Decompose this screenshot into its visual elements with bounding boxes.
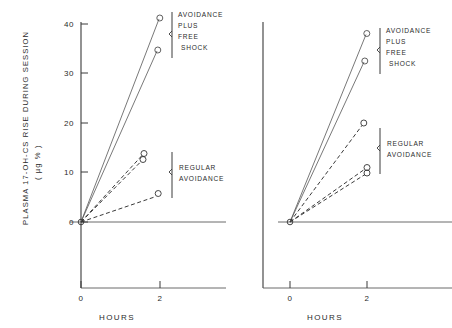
right-solid-line-1 bbox=[290, 35, 366, 223]
right-solid-line-2 bbox=[290, 62, 364, 222]
y-tick-label-10: 10 bbox=[64, 168, 74, 177]
left-legend-line-1: AVOIDANCE bbox=[178, 11, 223, 18]
right-solid-marker-1 bbox=[364, 31, 370, 37]
left-legend-reg-line-1: REGULAR bbox=[179, 164, 216, 171]
y-tick-label-20: 20 bbox=[64, 119, 74, 128]
right-dashed-line-2 bbox=[290, 169, 365, 222]
left-legend-regular-avoidance: REGULAR AVOIDANCE bbox=[169, 152, 224, 198]
left-dashed-marker-3 bbox=[155, 191, 161, 197]
right-legend-reg-line-2: AVOIDANCE bbox=[387, 151, 432, 158]
y-axis-units: ( µg % ) bbox=[33, 144, 42, 180]
right-legend-regular-avoidance: REGULAR AVOIDANCE bbox=[377, 128, 432, 174]
chart-svg: 40 30 20 10 0 0 2 HOURS bbox=[0, 0, 452, 328]
right-legend-avoidance-plus-free-shock: AVOIDANCE PLUS FREE SHOCK bbox=[377, 27, 431, 74]
figure-container: 40 30 20 10 0 0 2 HOURS bbox=[0, 0, 452, 328]
left-dashed-marker-2 bbox=[140, 157, 146, 163]
left-x-tick-label-2: 2 bbox=[158, 294, 163, 303]
left-solid-line-2 bbox=[81, 51, 157, 222]
left-solid-marker-2 bbox=[155, 47, 161, 53]
right-legend-line-4: SHOCK bbox=[389, 60, 416, 67]
left-x-tick-label-0: 0 bbox=[79, 294, 84, 303]
left-x-axis-title: HOURS bbox=[99, 313, 135, 322]
right-legend-line-2: PLUS bbox=[386, 38, 406, 45]
right-dashed-line-1 bbox=[290, 126, 362, 223]
left-dashed-line-2 bbox=[81, 162, 141, 223]
left-legend-line-2: PLUS bbox=[178, 22, 198, 29]
right-dashed-marker-1 bbox=[361, 120, 367, 126]
y-axis-title: PLASMA 17-OH-CS RISE DURING SESSION bbox=[21, 31, 30, 225]
left-legend-line-4: SHOCK bbox=[181, 44, 208, 51]
right-x-axis-title: HOURS bbox=[307, 313, 343, 322]
right-solid-marker-2 bbox=[362, 58, 368, 64]
right-series-regular-avoidance bbox=[287, 120, 370, 225]
left-dashed-marker-1 bbox=[141, 151, 147, 157]
left-solid-line-1 bbox=[81, 19, 159, 222]
right-x-tick-label-0: 0 bbox=[288, 294, 293, 303]
left-legend-avoidance-plus-free-shock: AVOIDANCE PLUS FREE SHOCK bbox=[169, 11, 223, 58]
y-tick-label-30: 30 bbox=[64, 69, 74, 78]
left-solid-marker-1 bbox=[157, 15, 163, 21]
right-legend-line-1: AVOIDANCE bbox=[386, 27, 431, 34]
right-legend-line-3: FREE bbox=[386, 49, 407, 56]
left-panel: 40 30 20 10 0 0 2 HOURS bbox=[64, 11, 226, 322]
left-y-ticks bbox=[81, 24, 88, 222]
left-legend-line-3: FREE bbox=[178, 33, 199, 40]
y-tick-label-40: 40 bbox=[64, 20, 74, 29]
right-panel: 0 2 HOURS AVOIDANCE PLUS FREE SHOCK bbox=[263, 27, 452, 322]
left-legend-reg-line-2: AVOIDANCE bbox=[179, 175, 224, 182]
left-series-regular-avoidance bbox=[78, 151, 161, 225]
left-series-avoidance-plus-free-shock bbox=[81, 15, 163, 222]
right-legend-reg-line-1: REGULAR bbox=[387, 140, 424, 147]
right-x-tick-label-2: 2 bbox=[365, 294, 370, 303]
y-tick-label-0: 0 bbox=[69, 218, 74, 227]
left-dashed-line-1 bbox=[81, 156, 142, 223]
